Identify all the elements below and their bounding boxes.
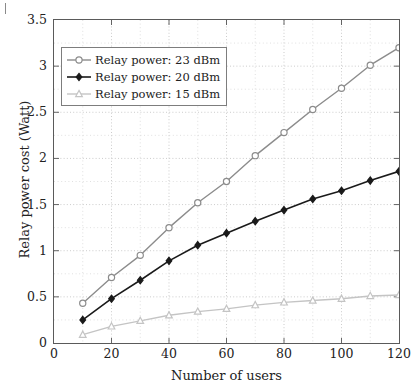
legend-label: Relay power: 23 dBm — [95, 53, 220, 67]
legend-item: Relay power: 23 dBm — [66, 51, 220, 68]
legend-marker-triangle-icon — [66, 87, 92, 101]
figure-relay-power-cost: 00.511.522.533.5 020406080100120 Number … — [0, 0, 414, 391]
x-tick-label: 120 — [387, 348, 411, 361]
x-tick-label: 0 — [50, 348, 58, 361]
x-tick-label: 20 — [104, 348, 120, 361]
legend-marker-circle-icon — [66, 53, 92, 67]
x-tick-label: 60 — [219, 348, 235, 361]
legend-label: Relay power: 15 dBm — [95, 87, 220, 101]
x-tick-label: 80 — [276, 348, 292, 361]
x-tick-label: 100 — [330, 348, 354, 361]
x-tick-label: 40 — [161, 348, 177, 361]
x-axis-title: Number of users — [53, 368, 400, 383]
legend: Relay power: 23 dBmRelay power: 20 dBmRe… — [61, 47, 227, 106]
legend-item: Relay power: 20 dBm — [66, 68, 220, 85]
legend-label: Relay power: 20 dBm — [95, 70, 220, 84]
y-axis-title: Relay power cost (Watt) — [17, 60, 32, 300]
legend-item: Relay power: 15 dBm — [66, 85, 220, 102]
legend-marker-diamond-icon — [66, 70, 92, 84]
